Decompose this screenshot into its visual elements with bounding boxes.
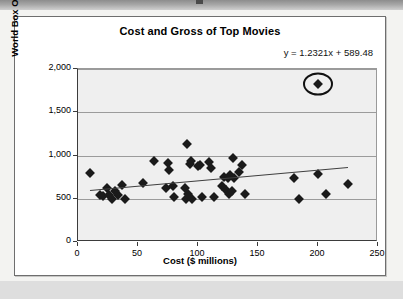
x-tick-label-200: 200 [302, 248, 332, 258]
data-point [228, 153, 238, 163]
x-tick-label-0: 0 [62, 248, 92, 258]
x-tick-mark [377, 242, 378, 246]
x-tick-label-50: 50 [122, 248, 152, 258]
x-tick-mark [137, 242, 138, 246]
y-tick-label-1500: 1,500 [29, 105, 71, 115]
y-axis-title: World Box Office millions [9, 0, 20, 79]
chart-title: Cost and Gross of Top Movies [15, 25, 385, 37]
y-tick-label-0: 0 [29, 235, 71, 245]
y-tick-label-2000: 2,000 [29, 62, 71, 72]
data-point [206, 163, 216, 173]
data-point [209, 192, 219, 202]
x-tick-label-100: 100 [182, 248, 212, 258]
data-point [187, 194, 197, 204]
y-tick-label-1000: 1,000 [29, 149, 71, 159]
gridline-y-1500 [78, 112, 376, 113]
x-tick-label-150: 150 [242, 248, 272, 258]
data-point [138, 178, 148, 188]
trendline-equation-annotation: y = 1.2321x + 589.48 [284, 47, 373, 58]
chart-card: Cost and Gross of Top Movies y = 1.2321x… [14, 16, 386, 276]
gridline-y-2000 [78, 69, 376, 70]
data-point [197, 192, 207, 202]
x-tick-mark [77, 242, 78, 246]
y-tick-label-500: 500 [29, 192, 71, 202]
data-point [149, 156, 159, 166]
gridline-y-1000 [78, 156, 376, 157]
outlier-highlight-ellipse [303, 72, 333, 95]
data-point [343, 179, 353, 189]
x-tick-mark [317, 242, 318, 246]
data-point [169, 192, 179, 202]
scatter-plot-area [77, 68, 377, 241]
data-point [294, 194, 304, 204]
data-point [289, 173, 299, 183]
x-tick-mark [197, 242, 198, 246]
page-bottom-band [0, 281, 403, 299]
x-tick-label-250: 250 [362, 248, 392, 258]
data-point [182, 139, 192, 149]
data-point [85, 168, 95, 178]
data-point [240, 189, 250, 199]
x-tick-mark [257, 242, 258, 246]
page-band-notch [196, 0, 203, 4]
page-top-band [0, 0, 403, 10]
